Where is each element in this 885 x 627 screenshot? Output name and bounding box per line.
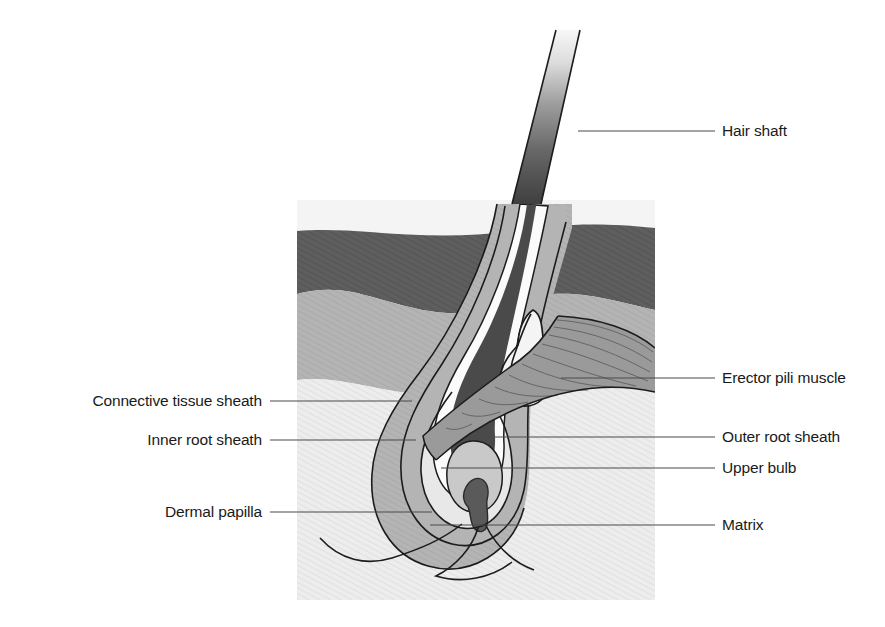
label-connective-tissue-sheath: Connective tissue sheath — [92, 392, 262, 409]
hair-follicle-figure: Connective tissue sheath Inner root shea… — [0, 0, 885, 627]
labels-right: Hair shaft Erector pili muscle Outer roo… — [722, 122, 846, 533]
hair-shaft — [512, 30, 580, 204]
label-matrix: Matrix — [722, 516, 764, 533]
label-dermal-papilla: Dermal papilla — [165, 503, 262, 520]
label-upper-bulb: Upper bulb — [722, 459, 796, 476]
hair-follicle-diagram-page: Connective tissue sheath Inner root shea… — [0, 0, 885, 627]
label-outer-root-sheath: Outer root sheath — [722, 428, 840, 445]
label-hair-shaft: Hair shaft — [722, 122, 788, 139]
label-inner-root-sheath: Inner root sheath — [147, 431, 262, 448]
label-erector-pili-muscle: Erector pili muscle — [722, 369, 846, 386]
labels-left: Connective tissue sheath Inner root shea… — [92, 392, 262, 520]
